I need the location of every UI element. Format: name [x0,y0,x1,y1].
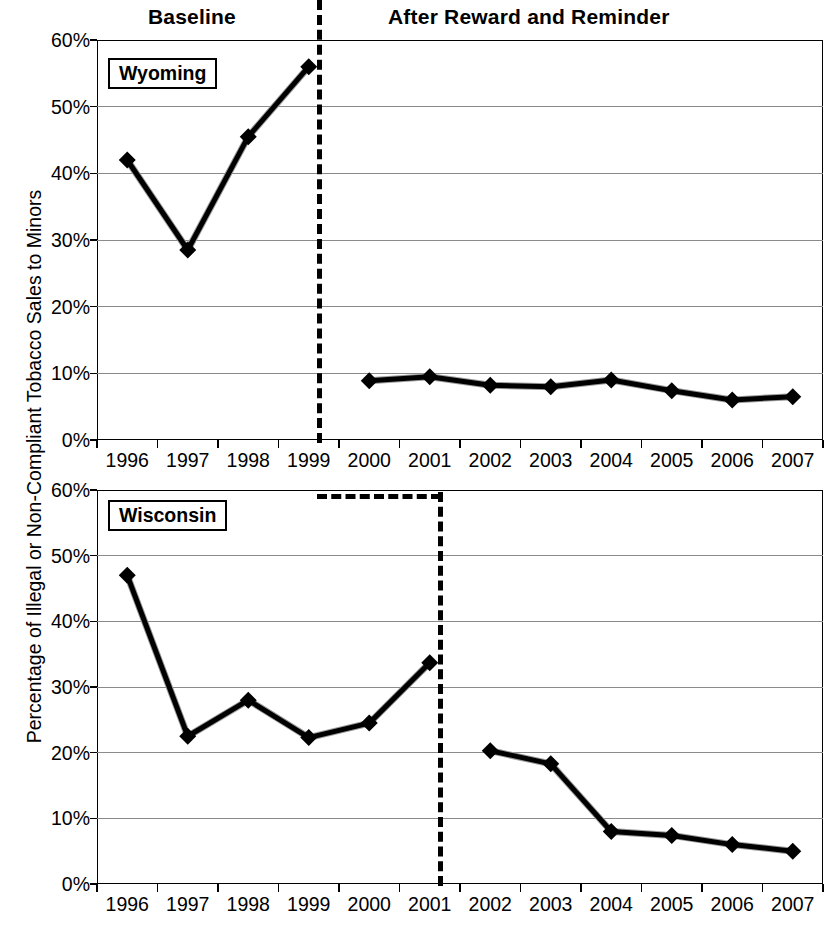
x-tick-label: 1997 [166,893,209,916]
x-tick-label: 2004 [590,893,633,916]
x-tick-mark [278,884,280,892]
x-tick-mark [96,884,98,892]
x-tick-mark [701,440,703,448]
x-tick-mark [520,440,522,448]
series-line [127,575,430,737]
x-tick-label: 1996 [106,449,149,472]
y-tick-mark [90,555,97,557]
y-axis-label: Percentage of Illegal or Non-Compliant T… [23,117,46,817]
data-point-marker [663,382,680,399]
divider-line-wisconsin [438,492,443,886]
y-tick-mark [90,686,97,688]
series-line-shadow [127,575,430,737]
data-point-marker [482,742,499,759]
y-tick-mark [90,239,97,241]
data-point-marker [784,388,801,405]
panel-wisconsin: 0%10%20%30%40%50%60% Wisconsin [97,490,823,884]
x-tick-label: 1998 [227,893,270,916]
x-tick-label: 1998 [227,449,270,472]
x-tick-label: 2006 [711,449,754,472]
panel-label-wisconsin: Wisconsin [108,500,227,531]
series-line-shadow [127,67,309,250]
x-tick-label: 2003 [529,893,572,916]
x-tick-label: 2004 [590,449,633,472]
x-tick-mark [459,884,461,892]
x-tick-label: 2005 [650,449,693,472]
x-tick-mark [217,440,219,448]
x-axis-labels-wisconsin: 1996199719981999200020012002200320042005… [97,893,823,919]
y-tick-label: 40% [51,610,90,633]
x-tick-label: 2000 [348,893,391,916]
data-point-marker [663,827,680,844]
y-tick-label: 60% [51,29,90,52]
x-tick-mark [338,440,340,448]
panel-wyoming: 0%10%20%30%40%50%60% Wyoming [97,40,823,440]
y-tick-mark [90,106,97,108]
x-tick-mark [157,440,159,448]
x-tick-mark [580,884,582,892]
data-point-marker [724,836,741,853]
data-point-marker [542,378,559,395]
data-point-marker [724,392,741,409]
divider-connector [317,494,441,499]
x-tick-label: 2002 [469,449,512,472]
x-tick-mark [217,884,219,892]
y-tick-mark [90,173,97,175]
y-tick-label: 10% [51,362,90,385]
series-line-shadow [490,751,793,851]
series-wisconsin [97,490,823,884]
y-tick-mark [90,489,97,491]
panel-label-wyoming: Wyoming [108,58,217,89]
x-tick-mark [822,440,824,448]
x-tick-mark [762,440,764,448]
x-tick-mark [641,440,643,448]
y-tick-label: 20% [51,741,90,764]
x-tick-label: 2001 [408,893,451,916]
x-tick-mark [157,884,159,892]
y-tick-label: 0% [62,429,90,452]
divider-line-wyoming [317,0,322,443]
x-tick-label: 2002 [469,893,512,916]
y-tick-mark [90,621,97,623]
x-tick-label: 2001 [408,449,451,472]
y-tick-mark [90,818,97,820]
x-tick-mark [580,440,582,448]
y-tick-mark [90,752,97,754]
x-tick-mark [762,884,764,892]
x-tick-mark [338,884,340,892]
x-tick-mark [459,440,461,448]
y-tick-mark [90,306,97,308]
x-tick-label: 1999 [287,893,330,916]
data-point-marker [421,368,438,385]
x-tick-mark [520,884,522,892]
x-tick-mark [399,884,401,892]
x-axis-labels-wyoming: 1996199719981999200020012002200320042005… [97,449,823,475]
data-point-marker [603,372,620,389]
x-tick-label: 2000 [348,449,391,472]
x-tick-label: 1999 [287,449,330,472]
y-tick-mark [90,39,97,41]
x-tick-label: 1996 [106,893,149,916]
header-after-reward-and-reminder: After Reward and Reminder [388,5,670,29]
x-tick-mark [641,884,643,892]
x-tick-label: 2007 [771,893,814,916]
y-tick-label: 30% [51,676,90,699]
header-baseline: Baseline [148,5,236,29]
data-point-marker [361,372,378,389]
x-tick-mark [278,440,280,448]
y-tick-label: 20% [51,295,90,318]
x-tick-mark [399,440,401,448]
data-point-marker [482,377,499,394]
y-tick-label: 10% [51,807,90,830]
x-tick-label: 2005 [650,893,693,916]
x-tick-label: 2006 [711,893,754,916]
data-point-marker [784,843,801,860]
series-wyoming [97,40,823,440]
y-tick-label: 30% [51,229,90,252]
y-tick-mark [90,373,97,375]
x-tick-label: 2003 [529,449,572,472]
x-tick-mark [96,440,98,448]
x-tick-mark [701,884,703,892]
x-tick-label: 1997 [166,449,209,472]
y-tick-label: 0% [62,873,90,896]
